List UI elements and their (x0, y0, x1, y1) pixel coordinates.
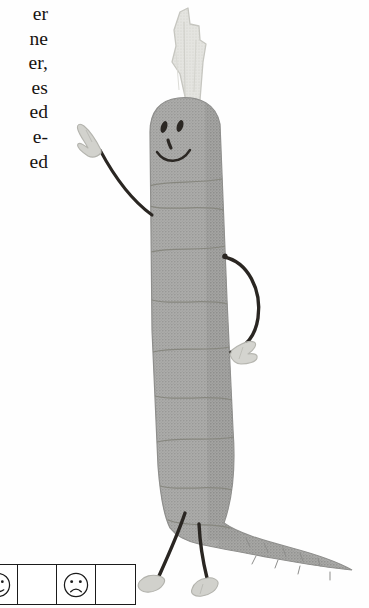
rating-cell-3[interactable] (57, 565, 96, 604)
right-foot (192, 578, 219, 596)
cartoon-carrot-character: Hand-drawn smiling carrot with arms and … (0, 0, 369, 608)
face-rating-scale[interactable] (0, 564, 136, 605)
rating-cell-1[interactable] (0, 565, 18, 604)
right-hand (230, 341, 257, 364)
left-arm (77, 124, 152, 215)
scanned-page: er ne er, es ed e- ed Hand-drawn smiling… (0, 0, 369, 608)
rating-cell-4[interactable] (96, 565, 135, 604)
rating-cell-2[interactable] (18, 565, 57, 604)
sad-face-icon (63, 571, 90, 598)
face-icon-partial (0, 571, 12, 598)
sprout-stem (172, 8, 206, 101)
left-foot (138, 575, 164, 592)
left-hand (77, 124, 101, 157)
